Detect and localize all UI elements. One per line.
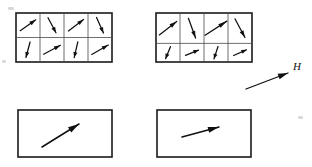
applied-field-label: H bbox=[292, 60, 302, 72]
applied-field-arrowhead bbox=[278, 73, 288, 79]
paper-speck-1 bbox=[298, 116, 303, 119]
net-magnetization-box-right-frame bbox=[157, 110, 251, 157]
net-magnetization-box-left bbox=[18, 110, 112, 157]
unmagnetized-domain-grid bbox=[16, 13, 112, 62]
magnetic-domain-figure: H bbox=[0, 0, 312, 167]
net-magnetization-box-right bbox=[157, 110, 251, 157]
partially-aligned-domain-grid bbox=[156, 13, 252, 62]
figure-canvas: H bbox=[0, 0, 312, 167]
paper-speck-2 bbox=[2, 60, 6, 63]
paper-speck-0 bbox=[8, 7, 14, 10]
applied-field-layer: H bbox=[246, 60, 302, 89]
panel-layer bbox=[16, 13, 252, 157]
